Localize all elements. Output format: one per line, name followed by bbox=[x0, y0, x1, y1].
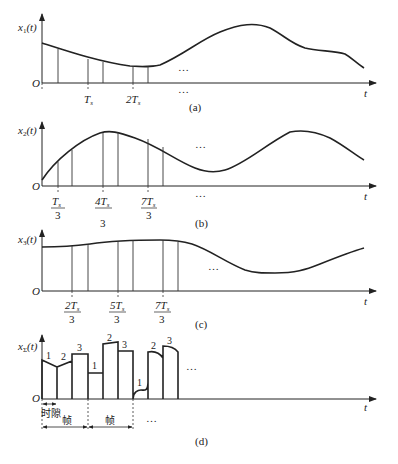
svg-text:3: 3 bbox=[55, 209, 61, 221]
xlabel-a: t bbox=[364, 87, 368, 99]
slot-number: 1 bbox=[137, 377, 142, 388]
frame-label: 帧 bbox=[105, 414, 115, 426]
slot-number: 3 bbox=[167, 335, 172, 346]
signal-x3-curve bbox=[42, 240, 364, 273]
svg-text:3: 3 bbox=[114, 313, 120, 325]
time-slot-label: 时隙 bbox=[41, 407, 61, 419]
tick-7Ts-over-3: 7Ts 3 bbox=[154, 299, 171, 325]
frame-label: 帧 bbox=[62, 414, 72, 426]
caption-b: (b) bbox=[195, 217, 208, 230]
ellipsis: … bbox=[186, 360, 197, 372]
ylabel-a: x1(t) bbox=[17, 21, 37, 35]
ylabel-d: xΣ(t) bbox=[17, 340, 38, 354]
tick-5Ts-over-3: 5Ts 3 bbox=[109, 299, 126, 325]
ylabel-b: x2(t) bbox=[17, 124, 37, 138]
svg-text:3: 3 bbox=[146, 209, 152, 221]
svg-text:4Ts: 4Ts bbox=[95, 195, 110, 209]
xlabel-d: t bbox=[364, 401, 368, 413]
slot-number: 3 bbox=[122, 339, 127, 350]
slot-number: 2 bbox=[151, 340, 156, 351]
slot-number: 2 bbox=[61, 351, 66, 362]
panel-d: xΣ(t) O t 1 2 3 1 2 3 1 2 3 时隙 帧 帧 … … (… bbox=[17, 332, 376, 448]
svg-text:3: 3 bbox=[100, 217, 106, 229]
panel-c: x3(t) O t 2Ts 3 5Ts 3 7Ts 3 … (c) bbox=[17, 230, 376, 331]
tick-2Ts-over-3: 2Ts 3 bbox=[64, 299, 81, 325]
ellipsis: … bbox=[146, 412, 157, 424]
ellipsis: … bbox=[195, 187, 206, 199]
origin-d: O bbox=[32, 392, 40, 404]
origin-a: O bbox=[32, 77, 40, 89]
caption-d: (d) bbox=[195, 435, 208, 448]
svg-text:5Ts: 5Ts bbox=[110, 299, 125, 313]
tick-7Ts-over-3: 7Ts 3 bbox=[141, 195, 157, 221]
svg-text:3: 3 bbox=[69, 313, 75, 325]
tick-4Ts-over-3: 4Ts 3 bbox=[95, 195, 112, 229]
ellipsis: … bbox=[178, 61, 189, 73]
slot-number: 1 bbox=[92, 360, 97, 371]
slot-number: 2 bbox=[107, 332, 112, 343]
origin-c: O bbox=[32, 285, 40, 297]
svg-text:7Ts: 7Ts bbox=[155, 299, 170, 313]
caption-c: (c) bbox=[195, 318, 208, 331]
tick-Ts: Ts bbox=[84, 93, 93, 107]
ellipsis: … bbox=[178, 83, 189, 95]
tick-Ts-over-3: Ts 3 bbox=[51, 195, 65, 221]
slot-number: 1 bbox=[46, 350, 51, 361]
svg-text:2Ts: 2Ts bbox=[65, 299, 80, 313]
xlabel-b: t bbox=[364, 190, 368, 202]
tdm-sampling-diagram: x1(t) O t Ts 2Ts … … (a) x2(t) O t bbox=[0, 0, 398, 464]
caption-a: (a) bbox=[189, 101, 202, 114]
ylabel-c: x3(t) bbox=[17, 233, 37, 247]
svg-text:3: 3 bbox=[159, 313, 165, 325]
signal-x1-curve bbox=[42, 25, 364, 68]
svg-text:7Ts: 7Ts bbox=[141, 195, 156, 209]
panel-b: x2(t) O t Ts 3 4Ts 3 7Ts 3 … … (b) bbox=[17, 122, 376, 230]
xlabel-c: t bbox=[364, 295, 368, 307]
svg-text:Ts: Ts bbox=[52, 195, 61, 209]
panel-a: x1(t) O t Ts 2Ts … … (a) bbox=[17, 14, 376, 114]
origin-b: O bbox=[32, 180, 40, 192]
ellipsis: … bbox=[195, 138, 206, 150]
tick-2Ts: 2Ts bbox=[126, 93, 141, 107]
slot-number: 3 bbox=[77, 342, 82, 353]
ellipsis: … bbox=[208, 260, 219, 272]
